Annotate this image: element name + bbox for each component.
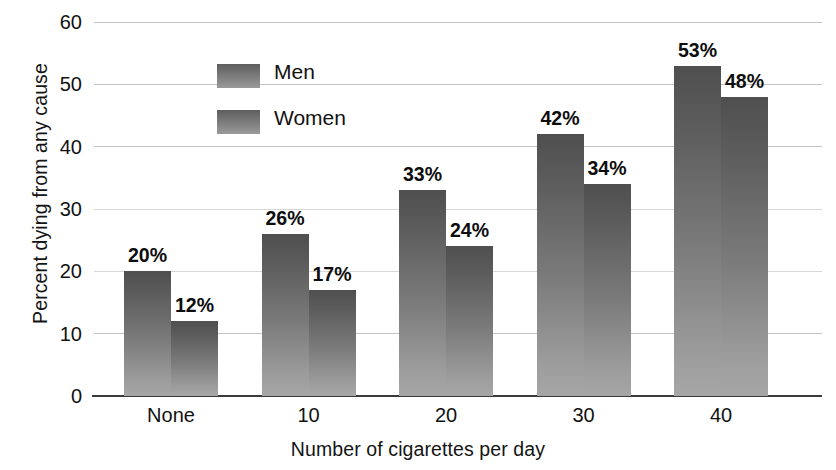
bar-value-label: 26% — [265, 207, 304, 230]
y-axis-tick-label: 60 — [0, 11, 82, 34]
bar-men-30 — [537, 134, 584, 396]
bar-value-label: 34% — [587, 157, 626, 180]
legend-swatch-women-icon — [217, 110, 260, 134]
y-axis-tick-label: 0 — [0, 385, 82, 408]
legend-label-men: Men — [274, 60, 315, 84]
y-axis-tick-label: 30 — [0, 198, 82, 221]
legend-label-women: Women — [274, 106, 346, 130]
x-axis-tick-label: 40 — [710, 404, 732, 427]
bar-value-label: 17% — [312, 263, 351, 286]
x-axis-tick-label: 10 — [297, 404, 319, 427]
bar-value-label: 24% — [450, 219, 489, 242]
bar-value-label: 33% — [403, 163, 442, 186]
bar-women-10 — [309, 290, 356, 396]
bar-men-10 — [262, 234, 309, 396]
bar-men-40 — [674, 66, 721, 396]
bar-women-30 — [584, 184, 631, 396]
plot-area: 20%12%26%17%33%24%42%34%53%48% Men Women — [94, 22, 822, 396]
bar-value-label: 53% — [678, 39, 717, 62]
y-axis-tick-label: 50 — [0, 73, 82, 96]
bar-women-40 — [721, 97, 768, 396]
y-axis-tick-label: 10 — [0, 322, 82, 345]
bar-men-20 — [399, 190, 446, 396]
legend-swatch-men-icon — [217, 64, 260, 88]
y-axis-tick-label: 20 — [0, 260, 82, 283]
bar-chart: Percent dying from any cause 01020304050… — [0, 0, 836, 470]
x-axis-tick-label: 20 — [435, 404, 457, 427]
bar-value-label: 12% — [175, 294, 214, 317]
bar-men-none — [124, 271, 171, 396]
bar-women-20 — [446, 246, 493, 396]
x-axis-tick-label: None — [147, 404, 195, 427]
bar-value-label: 20% — [128, 244, 167, 267]
bar-women-none — [171, 321, 218, 396]
bar-value-label: 42% — [540, 107, 579, 130]
y-axis-tick-label: 40 — [0, 135, 82, 158]
gridline — [94, 22, 822, 23]
bar-value-label: 48% — [725, 70, 764, 93]
x-axis-title: Number of cigarettes per day — [0, 438, 836, 461]
x-axis-tick-label: 30 — [572, 404, 594, 427]
